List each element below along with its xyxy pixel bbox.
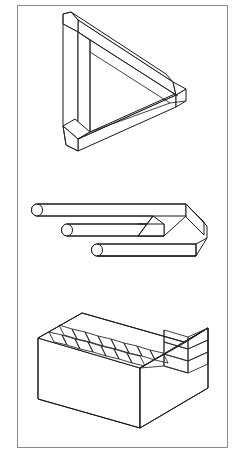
- figure-impossible-staircase: [18, 6, 227, 449]
- impossible-figures-page: [0, 0, 245, 463]
- impossible-staircase-shape: [38, 313, 208, 428]
